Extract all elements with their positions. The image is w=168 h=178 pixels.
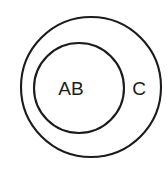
outer-region-label: C xyxy=(132,78,146,99)
euler-diagram-svg: AB C xyxy=(0,0,168,178)
diagram-canvas: AB C xyxy=(0,0,168,178)
inner-region-label: AB xyxy=(58,78,83,99)
